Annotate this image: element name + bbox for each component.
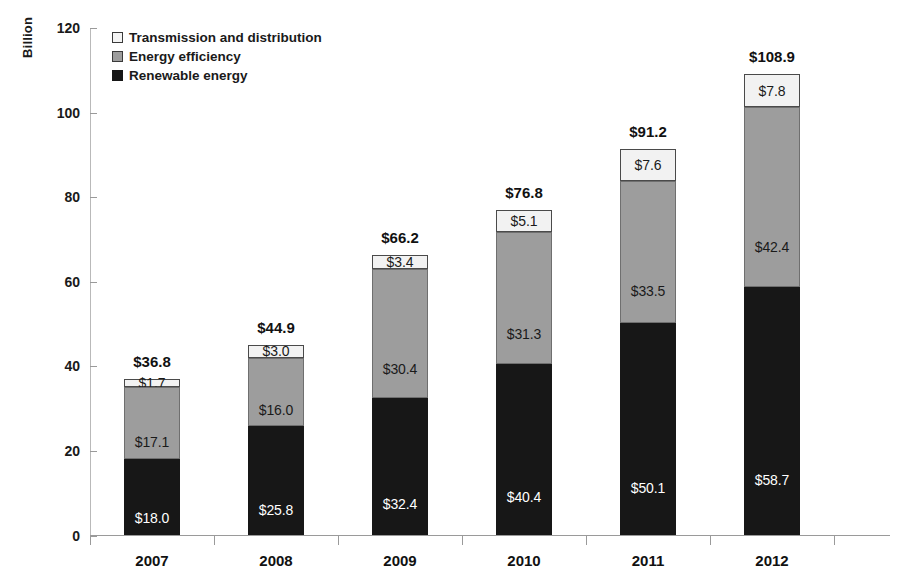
segment-renewable-2007[interactable]: $18.0 xyxy=(124,459,180,535)
bar-2011[interactable]: $91.2 $7.6 $33.5 $50.1 xyxy=(620,149,676,535)
y-tick-mark-60 xyxy=(90,282,97,283)
segment-label-efficiency-2010: $31.3 xyxy=(507,326,542,342)
legend-label-transmission: Transmission and distribution xyxy=(129,30,322,45)
segment-label-efficiency-2012: $42.4 xyxy=(755,239,790,255)
segment-transmission-2010[interactable]: $5.1 xyxy=(496,210,552,232)
segment-label-renewable-2007: $18.0 xyxy=(135,510,170,526)
x-tick-mark-5 xyxy=(710,536,711,545)
legend-item-renewable[interactable]: Renewable energy xyxy=(112,68,322,83)
plot-area: 120 100 80 60 40 20 0 $36.8 $1.7 $17.1 xyxy=(90,28,890,536)
x-tick-mark-4 xyxy=(586,536,587,545)
segment-label-renewable-2011: $50.1 xyxy=(631,480,666,496)
y-tick-label-80: 80 xyxy=(18,189,80,205)
renewable-swatch-icon xyxy=(112,70,123,81)
segment-transmission-2009[interactable]: $3.4 xyxy=(372,255,428,269)
bar-total-2008: $44.9 xyxy=(226,319,326,336)
segment-label-efficiency-2009: $30.4 xyxy=(383,361,418,377)
segment-label-efficiency-2011: $33.5 xyxy=(631,283,666,299)
segment-renewable-2011[interactable]: $50.1 xyxy=(620,323,676,535)
segment-transmission-2007[interactable]: $1.7 xyxy=(124,379,180,386)
segment-efficiency-2008[interactable]: $16.0 xyxy=(248,358,304,426)
segment-renewable-2012[interactable]: $58.7 xyxy=(744,287,800,535)
segment-label-renewable-2008: $25.8 xyxy=(259,502,294,518)
segment-efficiency-2009[interactable]: $30.4 xyxy=(372,269,428,398)
bar-2010[interactable]: $76.8 $5.1 $31.3 $40.4 xyxy=(496,210,552,535)
segment-label-renewable-2010: $40.4 xyxy=(507,489,542,505)
segment-renewable-2008[interactable]: $25.8 xyxy=(248,426,304,535)
legend-item-efficiency[interactable]: Energy efficiency xyxy=(112,49,322,64)
y-tick-mark-100 xyxy=(90,113,97,114)
x-axis-label-2012: 2012 xyxy=(744,552,800,569)
segment-efficiency-2012[interactable]: $42.4 xyxy=(744,107,800,286)
y-tick-mark-40 xyxy=(90,366,97,367)
segment-renewable-2010[interactable]: $40.4 xyxy=(496,364,552,535)
x-tick-mark-0 xyxy=(90,536,91,545)
segment-efficiency-2010[interactable]: $31.3 xyxy=(496,232,552,365)
x-axis-label-2009: 2009 xyxy=(372,552,428,569)
segment-label-efficiency-2007: $17.1 xyxy=(135,434,170,450)
y-tick-label-0: 0 xyxy=(18,528,80,544)
y-tick-label-120: 120 xyxy=(18,20,80,36)
bar-total-2012: $108.9 xyxy=(722,48,822,65)
bar-2009[interactable]: $66.2 $3.4 $30.4 $32.4 xyxy=(372,255,428,535)
bar-total-2011: $91.2 xyxy=(598,123,698,140)
segment-renewable-2009[interactable]: $32.4 xyxy=(372,398,428,535)
transmission-swatch-icon xyxy=(112,32,123,43)
bar-total-2007: $36.8 xyxy=(102,353,202,370)
y-tick-mark-0 xyxy=(90,536,97,537)
y-tick-label-60: 60 xyxy=(18,274,80,290)
bar-2012[interactable]: $108.9 $7.8 $42.4 $58.7 xyxy=(744,74,800,535)
segment-label-renewable-2009: $32.4 xyxy=(383,496,418,512)
legend-label-efficiency: Energy efficiency xyxy=(129,49,241,64)
x-tick-mark-1 xyxy=(214,536,215,545)
y-axis-title-container: Billion xyxy=(14,30,34,150)
segment-transmission-2008[interactable]: $3.0 xyxy=(248,345,304,358)
legend-label-renewable: Renewable energy xyxy=(129,68,248,83)
segment-label-transmission-2011: $7.6 xyxy=(635,157,662,173)
y-tick-mark-20 xyxy=(90,451,97,452)
segment-label-renewable-2012: $58.7 xyxy=(755,472,790,488)
bar-2008[interactable]: $44.9 $3.0 $16.0 $25.8 xyxy=(248,345,304,535)
chart-legend: Transmission and distribution Energy eff… xyxy=(112,30,322,83)
segment-label-transmission-2010: $5.1 xyxy=(511,213,538,229)
bar-total-2009: $66.2 xyxy=(350,229,450,246)
bar-2007[interactable]: $36.8 $1.7 $17.1 $18.0 xyxy=(124,379,180,535)
x-axis-label-2007: 2007 xyxy=(124,552,180,569)
x-tick-mark-3 xyxy=(462,536,463,545)
bar-total-2010: $76.8 xyxy=(474,184,574,201)
x-axis-label-2011: 2011 xyxy=(620,552,676,569)
segment-transmission-2012[interactable]: $7.8 xyxy=(744,74,800,107)
segment-efficiency-2007[interactable]: $17.1 xyxy=(124,387,180,459)
legend-item-transmission[interactable]: Transmission and distribution xyxy=(112,30,322,45)
y-tick-label-20: 20 xyxy=(18,443,80,459)
segment-label-efficiency-2008: $16.0 xyxy=(259,402,294,418)
x-axis-line xyxy=(90,535,890,536)
x-axis-label-2008: 2008 xyxy=(248,552,304,569)
segment-label-transmission-2009: $3.4 xyxy=(387,254,414,270)
x-axis-label-2010: 2010 xyxy=(496,552,552,569)
segment-efficiency-2011[interactable]: $33.5 xyxy=(620,181,676,323)
y-tick-label-100: 100 xyxy=(18,105,80,121)
y-tick-label-40: 40 xyxy=(18,358,80,374)
segment-transmission-2011[interactable]: $7.6 xyxy=(620,149,676,181)
y-tick-mark-80 xyxy=(90,197,97,198)
x-tick-mark-2 xyxy=(338,536,339,545)
y-tick-mark-120 xyxy=(90,28,97,29)
stacked-bar-chart: Billion 120 100 80 60 40 20 0 $36.8 xyxy=(0,0,917,588)
efficiency-swatch-icon xyxy=(112,51,123,62)
x-tick-mark-6 xyxy=(834,536,835,545)
segment-label-transmission-2012: $7.8 xyxy=(759,83,786,99)
